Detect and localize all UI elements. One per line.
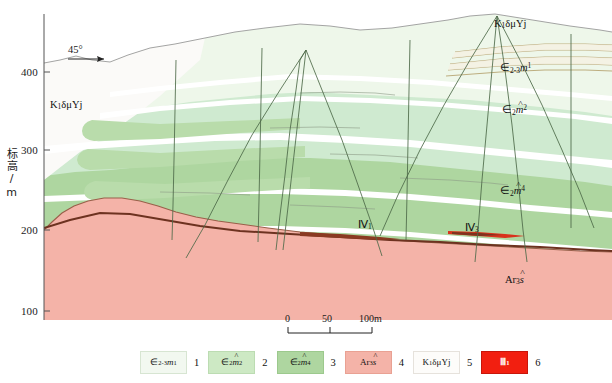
- legend-number: 6: [535, 357, 540, 368]
- label-dike-right: K1δμYj: [494, 18, 526, 30]
- label-unit-m2: ∈2m2: [502, 103, 527, 117]
- legend-entry: K1δμYj5: [413, 351, 472, 374]
- legend-number: 4: [399, 357, 404, 368]
- legend-number: 3: [331, 357, 336, 368]
- section-body: [44, 14, 612, 320]
- label-unit-m4: ∈2m4: [500, 184, 525, 198]
- legend-unit-archean: Ar3s: [345, 351, 392, 374]
- scale-label-0: 0: [285, 313, 290, 324]
- legend-orebody: Ⅲ1: [481, 351, 528, 374]
- legend-entry: ∈2m43: [277, 351, 336, 374]
- legend-entry: Ar3s4: [345, 351, 404, 374]
- legend-unit-dike: K1δμYj: [413, 351, 460, 374]
- dip-angle-label: 45°: [68, 44, 83, 55]
- label-orebody-iii3: Ⅳ3: [465, 221, 479, 234]
- legend-entry: Ⅲ16: [481, 351, 540, 374]
- legend-number: 2: [262, 357, 267, 368]
- legend-unit-m1: ∈2-3m1: [140, 351, 187, 374]
- legend: ∈2-3m11∈2m22∈2m43Ar3s4K1δμYj5Ⅲ16: [140, 348, 550, 376]
- label-orebody-iii1: Ⅳ1: [358, 218, 372, 231]
- label-unit-m1: ∈2-3m1: [500, 61, 531, 75]
- legend-entry: ∈2-3m11: [140, 351, 199, 374]
- scale-bar: 0 50 100m: [283, 313, 373, 335]
- axis-tick-100: 100: [4, 305, 38, 317]
- axis-tick-400: 400: [4, 66, 38, 78]
- legend-unit-m4: ∈2m4: [277, 351, 324, 374]
- legend-entry: ∈2m22: [208, 351, 267, 374]
- legend-number: 5: [467, 357, 472, 368]
- axis-tick-200: 200: [4, 224, 38, 236]
- scale-label-50: 50: [322, 313, 332, 324]
- label-dike-left: K1δμYj: [50, 99, 82, 111]
- scale-label-100: 100m: [359, 313, 382, 324]
- axis-title: 标高/m: [1, 148, 17, 200]
- label-unit-archean: Ar3s: [505, 274, 524, 286]
- legend-unit-m2: ∈2m2: [208, 351, 255, 374]
- legend-number: 1: [194, 357, 199, 368]
